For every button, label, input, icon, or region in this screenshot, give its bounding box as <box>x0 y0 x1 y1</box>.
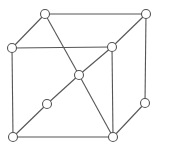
edge-front-top-right-to-center <box>79 47 112 75</box>
node-top-back-left <box>41 10 50 19</box>
edge-top-back-right-to-back-right-lower <box>145 14 146 103</box>
node-top-back-right <box>142 10 151 19</box>
node-back-right-lower <box>141 99 150 108</box>
edge-front-top-left-to-front-top-right <box>12 47 112 48</box>
edge-center-to-mid-diagonal <box>47 75 79 104</box>
node-front-top-right <box>108 43 117 52</box>
node-center <box>75 71 84 80</box>
edge-top-back-left-to-front-top-left <box>12 14 45 48</box>
edge-back-right-lower-to-front-bottom-right <box>113 103 145 137</box>
edge-top-back-left-to-center <box>45 14 79 75</box>
cube-graph-diagram <box>0 0 175 152</box>
node-front-bottom-left <box>9 133 18 142</box>
edge-center-to-front-bottom-right <box>79 75 113 137</box>
node-mid-diagonal <box>43 100 52 109</box>
node-front-bottom-right <box>109 133 118 142</box>
edge-top-back-right-to-front-top-right <box>112 14 146 47</box>
edge-front-top-right-to-front-bottom-right <box>112 47 113 137</box>
edge-mid-diagonal-to-front-bottom-left <box>13 104 47 137</box>
node-front-top-left <box>8 44 17 53</box>
edge-front-top-left-to-front-bottom-left <box>12 48 13 137</box>
